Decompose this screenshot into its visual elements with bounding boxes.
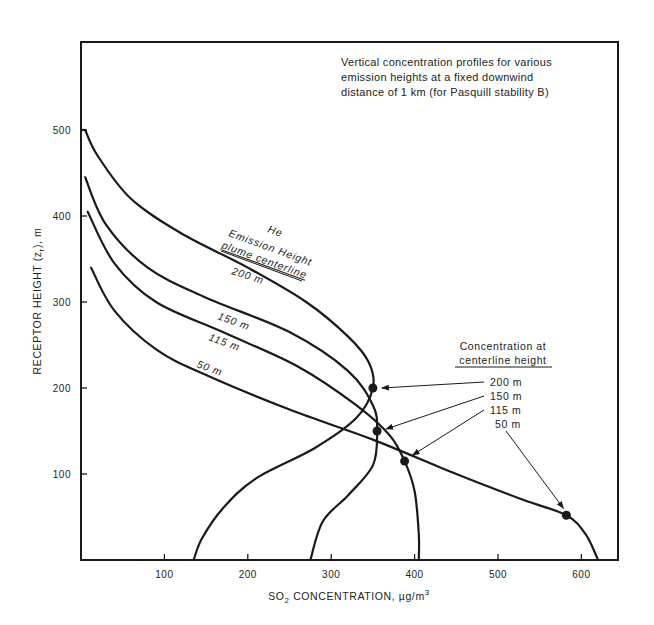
centerline-dot [368, 384, 377, 393]
legend-arrows [382, 382, 563, 508]
centerline-dot [400, 457, 409, 466]
centerline-dot [562, 511, 571, 520]
centerline-dot [373, 427, 382, 436]
svg-text:emission heights at a fixed do: emission heights at a fixed downwind [341, 71, 533, 83]
chart-title: Vertical concentration profiles for vari… [341, 56, 552, 98]
y-tick-label: 300 [53, 297, 71, 308]
centerline-points [368, 384, 570, 520]
plot-frame [81, 42, 618, 560]
svg-text:distance of 1 km (for Pasquill: distance of 1 km (for Pasquill stability… [341, 86, 549, 98]
x-tick-label: 500 [489, 569, 507, 580]
y-tick-label: 500 [53, 125, 71, 136]
legend-item: 115 m [490, 404, 521, 416]
y-axis-title: RECEPTOR HEIGHT (zr), m [31, 228, 46, 375]
y-tick-label: 200 [53, 383, 71, 394]
legend-item: 50 m [495, 418, 521, 430]
x-axis-title: SO2 CONCENTRATION, µg/m3 [268, 588, 430, 605]
curve-50m [91, 268, 598, 560]
chart: 100200300400500600 100200300400500 SO2 C… [0, 0, 654, 625]
svg-text:Vertical concentration profile: Vertical concentration profiles for vari… [341, 56, 552, 68]
y-tick-label: 100 [53, 469, 71, 480]
svg-text:centerline height: centerline height [459, 354, 546, 366]
legend-item: 150 m [490, 390, 522, 402]
legend-item: 200 m [490, 376, 522, 388]
y-tick-label: 400 [53, 211, 71, 222]
svg-text:Concentration at: Concentration at [460, 340, 547, 352]
svg-text:He: He [266, 223, 284, 239]
x-axis-ticks: 100200300400500600 [155, 554, 590, 580]
x-tick-label: 200 [239, 569, 257, 580]
x-tick-label: 600 [572, 569, 590, 580]
centerline-legend: Concentration atcenterline height200 m15… [455, 340, 552, 430]
x-tick-label: 300 [322, 569, 340, 580]
curve-label: 50 m [195, 358, 224, 378]
x-tick-label: 400 [406, 569, 424, 580]
x-tick-label: 100 [155, 569, 173, 580]
curve-labels: 200 m150 m115 m50 m [195, 264, 265, 378]
